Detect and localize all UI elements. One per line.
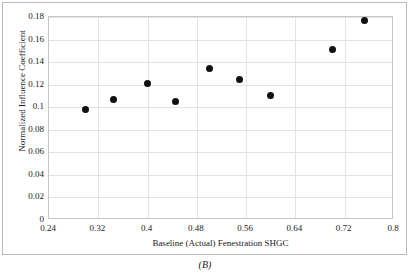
gridline-horizontal: [49, 62, 392, 63]
data-point: [82, 106, 89, 113]
gridline-vertical: [345, 17, 346, 218]
scatter-chart: Normalized Influence Coefficient 00.020.…: [0, 0, 410, 240]
gridline-vertical: [197, 17, 198, 218]
x-axis-tick-label: 0.24: [40, 224, 56, 233]
x-axis-tick-label: 0.72: [336, 224, 352, 233]
gridline-vertical: [148, 17, 149, 218]
gridline-horizontal: [49, 152, 392, 153]
gridline-horizontal: [49, 17, 392, 18]
panel-caption-text: (B): [199, 259, 212, 270]
data-point: [267, 92, 274, 99]
data-point: [172, 98, 179, 105]
gridline-horizontal: [49, 85, 392, 86]
y-axis-tick-label: 0.1: [33, 102, 44, 111]
gridline-vertical: [98, 17, 99, 218]
x-axis-tick-label: 0.32: [89, 224, 105, 233]
x-axis-tick-label: 0.56: [237, 224, 253, 233]
figure-panel-b: Normalized Influence Coefficient 00.020.…: [0, 0, 410, 278]
x-axis-tick-labels: 0.240.320.40.480.560.640.720.8: [0, 224, 410, 236]
gridline-vertical: [295, 17, 296, 218]
y-axis-tick-label: 0.02: [28, 192, 44, 201]
y-axis-tick-label: 0.16: [28, 34, 44, 43]
y-axis-tick-label: 0.08: [28, 124, 44, 133]
gridline-horizontal: [49, 130, 392, 131]
y-axis-tick-label: 0.18: [28, 12, 44, 21]
data-point: [206, 65, 213, 72]
data-point: [144, 80, 151, 87]
gridline-horizontal: [49, 197, 392, 198]
y-axis-tick-label: 0.04: [28, 169, 44, 178]
x-axis-tick-label: 0.64: [287, 224, 303, 233]
gridline-horizontal: [49, 175, 392, 176]
gridline-horizontal: [49, 40, 392, 41]
gridline-vertical: [246, 17, 247, 218]
x-axis-tick-label: 0.4: [141, 224, 152, 233]
y-axis-tick-label: 0.12: [28, 79, 44, 88]
x-axis-tick-label: 0.8: [387, 224, 398, 233]
panel-caption: (B): [0, 259, 410, 271]
data-point: [110, 96, 117, 103]
data-point: [329, 46, 336, 53]
data-point: [236, 76, 243, 83]
y-axis-tick-label: 0.14: [28, 57, 44, 66]
plot-area: [48, 16, 393, 219]
y-axis-tick-label: 0.06: [28, 147, 44, 156]
data-point: [361, 17, 368, 24]
x-axis-title: Baseline (Actual) Fenestration SHGC: [48, 238, 393, 248]
y-axis-tick-labels: 00.020.040.060.080.10.120.140.160.18: [0, 0, 44, 240]
gridline-horizontal: [49, 107, 392, 108]
x-axis-tick-label: 0.48: [188, 224, 204, 233]
